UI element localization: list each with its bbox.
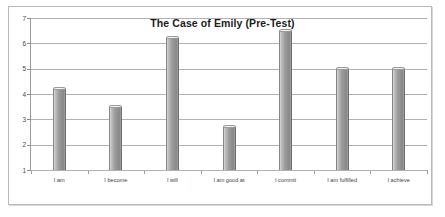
x-axis-category-label: I commit [263,177,309,184]
x-axis-tick-mark [427,171,428,174]
x-axis-category-label: I achieve [376,177,422,184]
x-axis-tick-mark [370,171,371,174]
y-axis-tick-mark [27,94,31,95]
x-axis-category-label: I will [149,177,195,184]
x-axis-tick-mark [31,171,32,174]
y-axis-tick-label: 5 [15,65,26,72]
x-axis-category-label: I am fulfilled [319,177,365,184]
x-axis-category-label: I become [93,177,139,184]
x-axis-tick-mark [144,171,145,174]
x-axis-tick-mark [88,171,89,174]
chart-figure: The Case of Emily (Pre-Test) 1234567 I a… [0,0,445,217]
y-axis-tick-label: 7 [15,15,26,22]
y-axis-tick-labels: 1234567 [0,0,445,217]
y-axis-tick-mark [27,43,31,44]
y-axis-tick-label: 4 [15,91,26,98]
x-axis-tick-mark [314,171,315,174]
y-axis-tick-label: 1 [15,167,26,174]
x-axis-tick-mark [201,171,202,174]
y-axis-tick-mark [27,119,31,120]
x-axis-tick-mark [257,171,258,174]
y-axis-tick-mark [27,18,31,19]
y-axis-tick-mark [27,69,31,70]
x-axis-category-label: I am [36,177,82,184]
x-axis-category-label: I am good at [206,177,252,184]
y-axis-tick-mark [27,145,31,146]
y-axis-tick-label: 2 [15,141,26,148]
y-axis-tick-label: 6 [15,40,26,47]
y-axis-tick-label: 3 [15,116,26,123]
